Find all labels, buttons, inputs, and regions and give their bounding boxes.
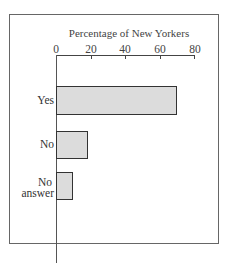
bar-no-answer bbox=[56, 172, 73, 200]
category-label-yes: Yes bbox=[37, 94, 54, 106]
tick-40 bbox=[125, 55, 126, 59]
tick-label-80: 80 bbox=[189, 43, 201, 55]
tick-20 bbox=[91, 55, 92, 59]
tick-label-40: 40 bbox=[119, 43, 131, 55]
bar-yes bbox=[56, 86, 177, 115]
chart-frame bbox=[9, 14, 219, 244]
axis-title: Percentage of New Yorkers bbox=[56, 27, 202, 39]
tick-label-20: 20 bbox=[85, 43, 97, 55]
tick-label-60: 60 bbox=[154, 43, 166, 55]
tick-60 bbox=[160, 55, 161, 59]
category-label-no-answer-line2: answer bbox=[21, 187, 54, 199]
bar-no bbox=[56, 131, 88, 159]
category-label-no: No bbox=[40, 138, 54, 150]
tick-label-0: 0 bbox=[53, 43, 59, 55]
tick-80 bbox=[194, 55, 195, 59]
